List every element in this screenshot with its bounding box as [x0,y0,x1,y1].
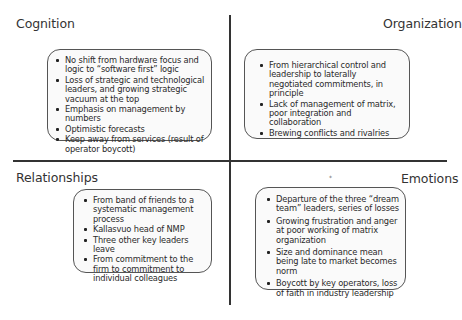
bullet-icon [260,64,263,67]
bullet-icon [56,108,59,111]
list-item: Emphasis on management by numbers [55,105,205,124]
bullet-icon [56,138,59,141]
emotions-box: Departure of the three “dream team” lead… [255,187,406,290]
horizontal-axis-divider [13,160,447,162]
quadrant-title-relationships: Relationships [16,170,98,185]
list-item: Kallasvuo head of NMP [83,225,206,234]
cognition-list: No shift from hardware focus and logic t… [55,56,205,154]
list-item-text: Kallasvuo head of NMP [93,224,184,234]
bullet-icon [84,228,87,231]
list-item-text: Emphasis on management by numbers [65,104,185,123]
list-item: Brewing conflicts and rivalries [259,129,399,138]
list-item-text: Brewing conflicts and rivalries [269,128,389,138]
organization-list: From hierarchical control and leadership… [259,61,399,138]
list-item: Lack of management of matrix, poor integ… [259,100,399,128]
list-item-text: Optimistic forecasts [65,124,145,134]
bullet-icon [84,199,87,202]
list-item: Departure of the three “dream team” lead… [266,195,400,214]
list-item: Boycott by key operators, loss of faith … [266,279,400,298]
list-item: Size and dominance mean being late to ma… [266,248,400,276]
bullet-icon [267,251,270,254]
bullet-icon [56,59,59,62]
list-item: Growing frustration and anger at poor wo… [266,217,400,245]
list-item: Keep away from services (result of opera… [55,135,205,154]
bullet-icon [260,132,263,135]
list-item-text: Lack of management of matrix, poor integ… [269,99,396,128]
list-item-text: Size and dominance mean being late to ma… [276,247,397,276]
list-item-text: Growing frustration and anger at poor wo… [276,216,397,245]
emotions-list: Departure of the three “dream team” lead… [266,195,400,298]
list-item-text: No shift from hardware focus and logic t… [65,55,199,74]
bullet-icon [56,128,59,131]
list-item: No shift from hardware focus and logic t… [55,56,205,75]
bullet-icon [84,258,87,261]
bullet-icon [84,239,87,242]
list-item-text: Boycott by key operators, loss of faith … [276,278,397,297]
quadrant-title-organization: Organization [383,16,462,31]
list-item-text: Loss of strategic and technological lead… [65,75,204,104]
list-item: From hierarchical control and leadership… [259,61,399,99]
quadrant-title-cognition: Cognition [16,16,75,31]
list-item: From band of friends to a systematic man… [83,196,206,224]
quadrant-title-emotions: Emotions [401,171,458,186]
list-item: From commitment to the firm to commitmen… [83,255,206,283]
list-item-text: From band of friends to a systematic man… [93,195,194,224]
bullet-icon [56,79,59,82]
bullet-icon [260,103,263,106]
cognition-box: No shift from hardware focus and logic t… [47,49,212,141]
list-item-text: Departure of the three “dream team” lead… [276,194,399,213]
bullet-icon [267,220,270,223]
bullet-icon [267,282,270,285]
list-item: Optimistic forecasts [55,125,205,134]
scan-artifact-mark: * [329,174,332,181]
list-item-text: From commitment to the firm to commitmen… [93,254,193,283]
relationships-box: From band of friends to a systematic man… [73,189,212,273]
list-item: Three other key leaders leave [83,236,206,255]
list-item-text: From hierarchical control and leadership… [269,60,386,98]
list-item-text: Keep away from services (result of opera… [65,134,204,153]
list-item-text: Three other key leaders leave [93,235,188,254]
bullet-icon [267,198,270,201]
relationships-list: From band of friends to a systematic man… [83,196,206,284]
list-item: Loss of strategic and technological lead… [55,76,205,104]
organization-box: From hierarchical control and leadership… [244,49,410,139]
